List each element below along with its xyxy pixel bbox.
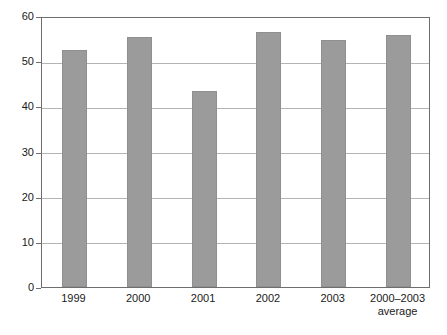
x-axis-tick-label: 2003 bbox=[300, 292, 365, 305]
y-axis-tick-label: 50 bbox=[0, 56, 34, 67]
y-axis-tick-label: 60 bbox=[0, 11, 34, 22]
bar bbox=[321, 40, 346, 287]
gridline bbox=[42, 108, 429, 109]
bar-chart: 0102030405060 199920002001200220032000–2… bbox=[0, 0, 447, 335]
gridline bbox=[42, 63, 429, 64]
bar bbox=[192, 91, 217, 287]
gridline bbox=[42, 153, 429, 154]
x-axis-tick-label: 2000–2003 average bbox=[365, 292, 430, 318]
gridline bbox=[42, 198, 429, 199]
bar bbox=[386, 35, 411, 287]
gridline bbox=[42, 243, 429, 244]
y-axis-tick-label: 10 bbox=[0, 237, 34, 248]
bar bbox=[256, 32, 281, 287]
x-axis: 199920002001200220032000–2003 average bbox=[41, 292, 430, 334]
y-axis-tick-label: 0 bbox=[0, 282, 34, 293]
bar bbox=[127, 37, 152, 287]
y-axis-tick-label: 30 bbox=[0, 147, 34, 158]
x-axis-tick-label: 2001 bbox=[171, 292, 236, 305]
x-axis-tick-label: 1999 bbox=[41, 292, 106, 305]
plot-area bbox=[41, 17, 430, 288]
bar bbox=[62, 50, 87, 287]
y-axis-tick-mark bbox=[36, 288, 41, 289]
y-axis-tick-label: 20 bbox=[0, 192, 34, 203]
y-axis: 0102030405060 bbox=[0, 0, 34, 335]
x-axis-tick-label: 2000 bbox=[106, 292, 171, 305]
y-axis-tick-label: 40 bbox=[0, 101, 34, 112]
x-axis-tick-label: 2002 bbox=[236, 292, 301, 305]
